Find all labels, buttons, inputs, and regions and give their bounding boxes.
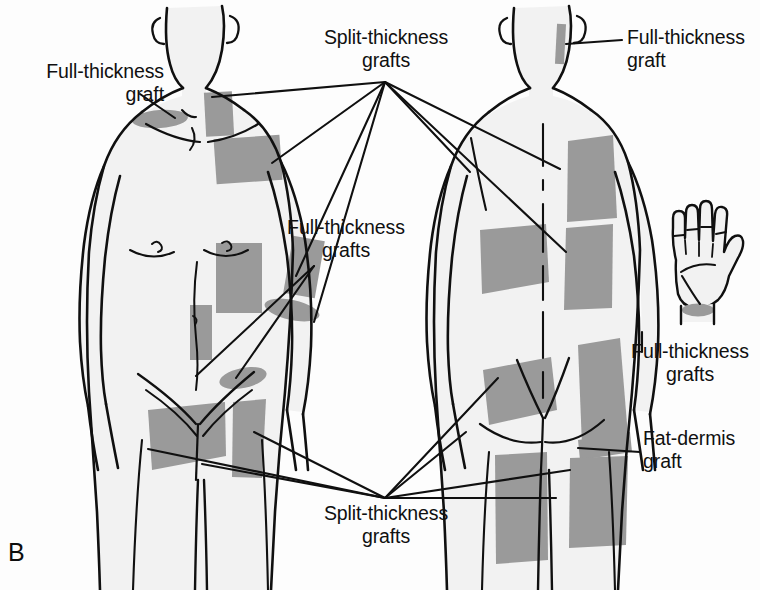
flank-graft [480, 224, 549, 294]
label-fat-dermis-graft-right: Fat-dermis graft [643, 427, 760, 473]
anterior-thigh-graft-right [232, 399, 266, 478]
lower-abdominal-graft [190, 305, 212, 360]
label-full-thickness-graft-top-right: Full-thickness graft [627, 26, 760, 72]
posterior-thigh-graft-right [569, 456, 628, 548]
label-split-thickness-grafts-top: Split-thickness grafts [300, 26, 472, 72]
mid-back-graft [564, 224, 613, 310]
label-full-thickness-graft-left: Full-thickness graft [6, 60, 164, 106]
upper-back-graft [567, 135, 617, 222]
wrist-crease-graft [682, 304, 714, 317]
figure-container: Full-thickness graft Split-thickness gra… [0, 0, 760, 590]
hand-palm-inset [673, 201, 743, 325]
lateral-neck-graft [204, 91, 234, 136]
label-full-thickness-grafts-middle: Full-thickness grafts [262, 216, 430, 262]
label-full-thickness-grafts-right: Full-thickness grafts [620, 340, 760, 386]
label-split-thickness-grafts-bottom: Split-thickness grafts [300, 502, 472, 548]
figure-panel-letter: B [8, 538, 25, 567]
